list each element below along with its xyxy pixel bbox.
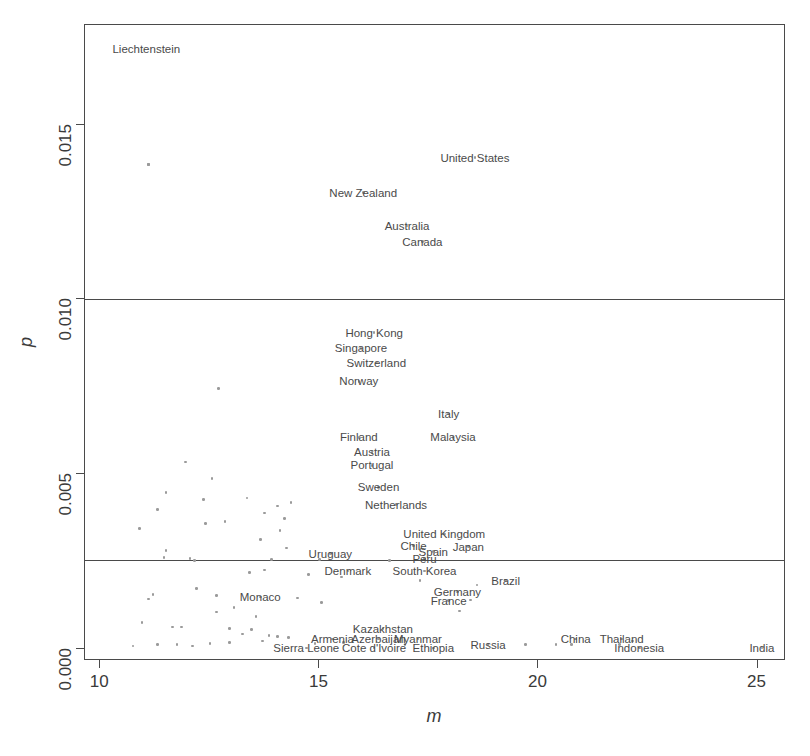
y-tick-label: 0.005 bbox=[56, 473, 76, 516]
data-point bbox=[180, 626, 183, 629]
data-point bbox=[156, 643, 159, 646]
point-label: Canada bbox=[402, 236, 442, 248]
x-tick bbox=[99, 660, 100, 668]
data-point bbox=[217, 387, 220, 390]
data-point bbox=[524, 643, 527, 646]
data-point bbox=[193, 559, 196, 562]
data-point bbox=[270, 558, 273, 561]
data-point bbox=[215, 594, 218, 597]
point-label: United Kingdom bbox=[403, 528, 485, 540]
data-point bbox=[202, 498, 205, 501]
data-point bbox=[215, 611, 218, 614]
data-point bbox=[147, 163, 150, 166]
data-point bbox=[224, 520, 227, 523]
data-point bbox=[184, 461, 187, 464]
data-point bbox=[276, 505, 279, 508]
y-tick bbox=[76, 648, 84, 649]
data-point bbox=[285, 547, 288, 550]
data-point bbox=[171, 626, 174, 629]
data-point bbox=[165, 491, 168, 494]
point-label: France bbox=[431, 595, 467, 607]
point-label: Ethiopia bbox=[413, 642, 455, 654]
data-point bbox=[163, 556, 166, 559]
data-point bbox=[259, 538, 262, 541]
point-label: Brazil bbox=[491, 575, 520, 587]
data-point bbox=[388, 559, 391, 562]
data-point bbox=[156, 508, 159, 511]
data-point bbox=[204, 522, 207, 525]
x-tick-label: 20 bbox=[528, 672, 547, 692]
data-point bbox=[419, 579, 422, 582]
y-tick bbox=[76, 473, 84, 474]
data-point bbox=[287, 636, 290, 639]
point-label: Japan bbox=[453, 541, 484, 553]
data-point bbox=[296, 597, 299, 600]
point-label: Italy bbox=[438, 408, 459, 420]
data-point bbox=[248, 571, 251, 574]
plot-area: LiechtensteinUnited StatesNew ZealandAus… bbox=[84, 24, 785, 660]
point-label: Portugal bbox=[351, 459, 394, 471]
data-point bbox=[290, 501, 293, 504]
data-point bbox=[283, 517, 286, 520]
data-point bbox=[307, 573, 310, 576]
data-point bbox=[228, 627, 231, 630]
point-label: United States bbox=[440, 152, 509, 164]
data-point bbox=[211, 477, 214, 480]
point-label: Uruguay bbox=[309, 548, 352, 560]
point-label: Netherlands bbox=[365, 499, 427, 511]
data-point bbox=[176, 643, 179, 646]
y-tick bbox=[76, 298, 84, 299]
point-label: Malaysia bbox=[430, 431, 475, 443]
x-axis-label: m bbox=[427, 706, 442, 727]
point-label: Monaco bbox=[240, 591, 281, 603]
x-tick-label: 25 bbox=[747, 672, 766, 692]
data-point bbox=[261, 640, 264, 643]
point-label: Sierra Leone bbox=[273, 642, 339, 654]
data-point bbox=[246, 497, 249, 500]
x-tick-label: 15 bbox=[309, 672, 328, 692]
data-point bbox=[279, 529, 282, 532]
data-point bbox=[209, 642, 212, 645]
data-point bbox=[320, 601, 323, 604]
data-point bbox=[555, 643, 558, 646]
data-point bbox=[228, 641, 231, 644]
divider-line-0 bbox=[85, 299, 784, 300]
y-tick bbox=[76, 124, 84, 125]
x-tick-label: 10 bbox=[90, 672, 109, 692]
point-label: Finland bbox=[340, 431, 378, 443]
data-point bbox=[195, 587, 198, 590]
data-point bbox=[458, 610, 461, 613]
point-label: South Korea bbox=[393, 565, 457, 577]
data-point bbox=[263, 569, 266, 572]
x-tick bbox=[757, 660, 758, 668]
point-label: Austria bbox=[354, 446, 390, 458]
point-label: Peru bbox=[412, 553, 436, 565]
point-label: Indonesia bbox=[614, 642, 664, 654]
point-label: Sweden bbox=[358, 481, 400, 493]
data-point bbox=[263, 512, 266, 515]
point-label: Hong Kong bbox=[345, 327, 403, 339]
data-point bbox=[132, 645, 135, 648]
point-label: Singapore bbox=[335, 342, 387, 354]
point-label: Norway bbox=[339, 375, 378, 387]
data-point bbox=[276, 635, 279, 638]
data-point bbox=[241, 633, 244, 636]
data-point bbox=[138, 527, 141, 530]
data-point bbox=[233, 606, 236, 609]
data-point bbox=[152, 593, 155, 596]
point-label: Denmark bbox=[325, 565, 372, 577]
data-point bbox=[191, 645, 194, 648]
point-label: New Zealand bbox=[329, 187, 397, 199]
data-point bbox=[165, 549, 168, 552]
y-tick-label: 0.015 bbox=[56, 124, 76, 167]
data-point bbox=[469, 599, 472, 602]
point-label: China bbox=[561, 633, 591, 645]
x-tick bbox=[318, 660, 319, 668]
point-label: Australia bbox=[385, 220, 430, 232]
data-point bbox=[255, 615, 258, 618]
point-label: India bbox=[749, 642, 774, 654]
y-axis-label: p bbox=[16, 337, 37, 347]
point-label: Switzerland bbox=[347, 357, 406, 369]
data-point bbox=[141, 621, 144, 624]
scatter-plot-figure: LiechtensteinUnited StatesNew ZealandAus… bbox=[0, 0, 810, 756]
